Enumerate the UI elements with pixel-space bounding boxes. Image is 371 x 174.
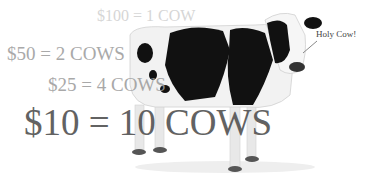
cow-shadow bbox=[135, 161, 315, 173]
holy-cow-callout: Holy Cow! bbox=[316, 30, 356, 39]
cow-ear bbox=[304, 17, 322, 29]
callout-pointer-line bbox=[302, 40, 318, 54]
cow-muzzle bbox=[289, 62, 305, 72]
price-line-10: $10 = 10 COWS bbox=[24, 104, 272, 141]
price-line-25: $25 = 4 COWS bbox=[48, 75, 166, 94]
price-line-50: $50 = 2 COWS bbox=[7, 44, 125, 63]
